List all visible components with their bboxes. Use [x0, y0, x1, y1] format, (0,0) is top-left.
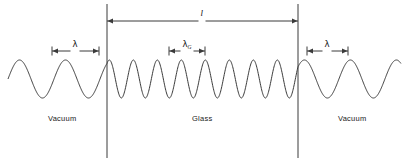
- dimension-label-wavelength-vacuum-right: λ: [325, 39, 330, 49]
- dimension-label-wavelength-vacuum-left: λ: [73, 39, 78, 49]
- dim-arrow-left-wavelength-glass: [170, 48, 176, 53]
- interface-boundary-group: [107, 4, 298, 158]
- wave-path: [8, 60, 401, 98]
- dim-arrow-right-wavelength-vacuum-left: [93, 48, 99, 53]
- dimension-label-slab-thickness: l: [201, 8, 204, 18]
- dim-arrow-right-wavelength-vacuum-right: [342, 48, 348, 53]
- region-label-vacuum-left: Vacuum: [48, 114, 76, 123]
- wave-in-glass-figure: l λ λG λ Vacuum Glass Vacuum: [0, 0, 409, 162]
- dim-arrow-right-slab-thickness: [292, 18, 298, 23]
- dim-arrow-left-slab-thickness: [108, 18, 114, 23]
- region-label-glass: Glass: [192, 114, 212, 123]
- figure-canvas: [0, 0, 409, 162]
- dim-arrow-right-wavelength-glass: [199, 48, 205, 53]
- dim-arrow-left-wavelength-vacuum-right: [308, 48, 314, 53]
- dimension-line-group: [52, 16, 348, 56]
- region-label-vacuum-right: Vacuum: [338, 114, 366, 123]
- dim-arrow-left-wavelength-vacuum-left: [53, 48, 59, 53]
- dimension-label-wavelength-glass: λG: [183, 39, 192, 50]
- waveform-group: [8, 60, 401, 98]
